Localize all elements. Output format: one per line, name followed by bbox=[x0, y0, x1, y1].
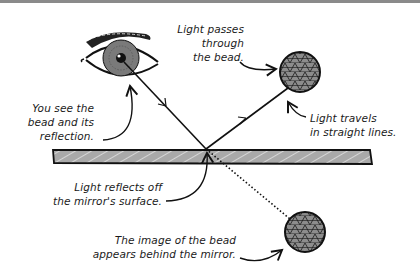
bead-image-icon bbox=[285, 212, 325, 252]
label-image-behind: The image of the bead appears behind the… bbox=[60, 233, 236, 261]
eye-icon bbox=[81, 32, 158, 76]
incident-ray bbox=[206, 88, 288, 149]
callout-arrow-icon bbox=[240, 250, 282, 261]
label-light-passes: Light passes through the bead. bbox=[160, 22, 244, 64]
label-you-see: You see the bead and its reflection. bbox=[10, 101, 94, 143]
label-light-travels: Light travels in straight lines. bbox=[310, 111, 420, 139]
callout-arrow-icon bbox=[103, 86, 132, 140]
mirror-shape bbox=[53, 150, 372, 164]
callout-arrow-icon bbox=[288, 102, 306, 117]
callout-arrow-icon bbox=[240, 62, 276, 70]
bead-icon bbox=[280, 52, 320, 92]
label-light-reflects: Light reflects off the mirror's surface. bbox=[40, 180, 162, 208]
